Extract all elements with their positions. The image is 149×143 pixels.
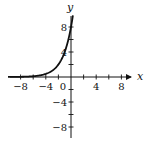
y-axis-label: y: [66, 1, 74, 14]
x-axis-label: x: [137, 70, 144, 83]
x-tick-label: 8: [118, 81, 124, 92]
x-tick-label: −8: [13, 81, 28, 92]
y-tick-label: 8: [61, 22, 67, 33]
y-tick-label: −8: [52, 122, 67, 133]
chart: −8−404884−4−8 x y: [0, 0, 149, 143]
x-tick-label: 0: [60, 81, 66, 92]
x-tick-label: −4: [38, 81, 53, 92]
x-tick-label: 4: [93, 81, 99, 92]
y-tick-label: −4: [52, 97, 67, 108]
